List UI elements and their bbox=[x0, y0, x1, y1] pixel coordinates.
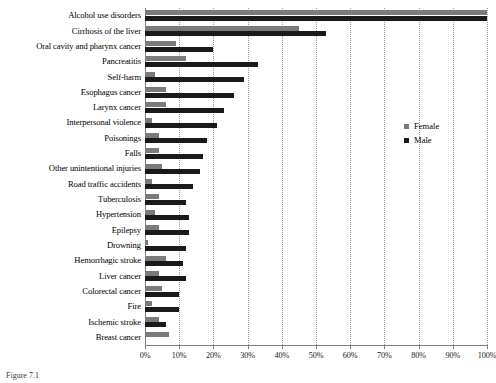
x-axis-tick bbox=[350, 345, 351, 349]
bar-male bbox=[145, 62, 258, 67]
bar-male bbox=[145, 31, 326, 36]
legend-label-female: Female bbox=[414, 120, 439, 132]
bar-female bbox=[145, 56, 186, 61]
bar-male bbox=[145, 215, 189, 220]
x-axis-tick-label: 30% bbox=[240, 351, 255, 360]
bar-male bbox=[145, 184, 193, 189]
gridline bbox=[419, 8, 421, 345]
bar-male bbox=[145, 47, 213, 52]
bar-male bbox=[145, 93, 234, 98]
x-axis-tick bbox=[213, 345, 214, 349]
x-axis-tick-label: 60% bbox=[343, 351, 358, 360]
category-label: Drowning bbox=[0, 240, 141, 250]
category-label: Fire bbox=[0, 301, 141, 311]
category-label: Interpersonal violence bbox=[0, 117, 141, 127]
x-axis-tick bbox=[145, 345, 146, 349]
x-axis-tick bbox=[419, 345, 420, 349]
bar-female bbox=[145, 225, 159, 230]
x-axis-tick bbox=[384, 345, 385, 349]
category-label: Breast cancer bbox=[0, 332, 141, 342]
legend-item-female: Female bbox=[404, 120, 439, 132]
male-swatch-icon bbox=[404, 138, 409, 143]
bar-female bbox=[145, 164, 162, 169]
bar-male bbox=[145, 276, 186, 281]
bar-male bbox=[145, 169, 200, 174]
category-label: Other unintentional injuries bbox=[0, 163, 141, 173]
chart-legend: Female Male bbox=[404, 120, 439, 148]
x-axis-tick bbox=[248, 345, 249, 349]
category-label: Alcohol use disorders bbox=[0, 10, 141, 20]
bar-female bbox=[145, 87, 166, 92]
bar-female bbox=[145, 332, 169, 337]
gridline bbox=[384, 8, 386, 345]
bar-male bbox=[145, 123, 217, 128]
x-axis-tick-label: 10% bbox=[172, 351, 187, 360]
gridline bbox=[213, 8, 215, 345]
category-label: Road traffic accidents bbox=[0, 179, 141, 189]
x-axis-tick-label: 50% bbox=[309, 351, 324, 360]
category-label: Pancreatitis bbox=[0, 56, 141, 66]
bar-female bbox=[145, 133, 159, 138]
bar-female bbox=[145, 26, 299, 31]
gridline bbox=[248, 8, 250, 345]
bar-female bbox=[145, 102, 166, 107]
category-label: Esophagus cancer bbox=[0, 87, 141, 97]
gridline bbox=[350, 8, 352, 345]
x-axis-tick-label: 40% bbox=[274, 351, 289, 360]
category-label: Poisonings bbox=[0, 133, 141, 143]
x-axis-tick-label: 90% bbox=[445, 351, 460, 360]
category-label: Tuberculosis bbox=[0, 194, 141, 204]
bar-male bbox=[145, 246, 186, 251]
category-label: Falls bbox=[0, 148, 141, 158]
bar-male bbox=[145, 292, 179, 297]
category-label: Cirrhosis of the liver bbox=[0, 26, 141, 36]
category-label: Self-harm bbox=[0, 72, 141, 82]
bar-male bbox=[145, 77, 244, 82]
bar-male bbox=[145, 138, 207, 143]
figure-caption: Figure 7.1 bbox=[6, 371, 39, 380]
bar-female bbox=[145, 194, 159, 199]
bar-male bbox=[145, 322, 166, 327]
x-axis-tick bbox=[453, 345, 454, 349]
bar-female bbox=[145, 72, 155, 77]
bar-male bbox=[145, 261, 183, 266]
category-label: Colorectal cancer bbox=[0, 286, 141, 296]
bar-female bbox=[145, 240, 148, 245]
bar-female bbox=[145, 41, 176, 46]
category-label: Hemorrhagic stroke bbox=[0, 255, 141, 265]
category-label: Hypertension bbox=[0, 209, 141, 219]
x-axis-tick-label: 70% bbox=[377, 351, 392, 360]
x-axis-tick-label: 80% bbox=[411, 351, 426, 360]
bar-male bbox=[145, 154, 203, 159]
bar-female bbox=[145, 10, 487, 15]
bar-female bbox=[145, 317, 159, 322]
bar-male bbox=[145, 230, 189, 235]
bar-female bbox=[145, 148, 159, 153]
gridline bbox=[316, 8, 318, 345]
legend-item-male: Male bbox=[404, 134, 439, 146]
gridline bbox=[487, 8, 489, 345]
category-label: Oral cavity and pharynx cancer bbox=[0, 41, 141, 51]
bar-female bbox=[145, 210, 155, 215]
x-axis-tick bbox=[282, 345, 283, 349]
female-swatch-icon bbox=[404, 124, 409, 129]
bar-male bbox=[145, 307, 179, 312]
category-label: Ischemic stroke bbox=[0, 317, 141, 327]
x-axis-tick-label: 100% bbox=[478, 351, 496, 360]
x-axis-tick-label: 0% bbox=[140, 351, 151, 360]
gridline bbox=[282, 8, 284, 345]
x-axis-tick bbox=[487, 345, 488, 349]
gridline bbox=[453, 8, 455, 345]
category-label: Epilepsy bbox=[0, 225, 141, 235]
x-axis-tick bbox=[316, 345, 317, 349]
bar-female bbox=[145, 271, 159, 276]
category-label: Larynx cancer bbox=[0, 102, 141, 112]
bar-female bbox=[145, 286, 162, 291]
legend-label-male: Male bbox=[414, 134, 432, 146]
category-label: Liver cancer bbox=[0, 271, 141, 281]
bar-male bbox=[145, 108, 224, 113]
bar-male bbox=[145, 16, 487, 21]
bar-female bbox=[145, 179, 152, 184]
bar-female bbox=[145, 301, 152, 306]
